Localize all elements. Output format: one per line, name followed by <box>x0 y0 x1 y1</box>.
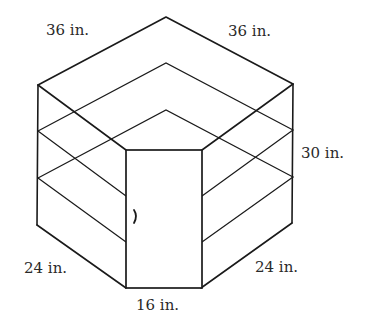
label-height-30in: 30 in. <box>301 146 344 161</box>
cabinet-drawing <box>0 0 366 331</box>
label-top-right-36in: 36 in. <box>228 24 271 39</box>
label-top-left-36in: 36 in. <box>46 23 89 38</box>
label-bottom-left-24in: 24 in. <box>24 261 67 276</box>
cabinet-door <box>126 150 202 288</box>
label-bottom-right-24in: 24 in. <box>255 260 298 275</box>
left-vertical-edge <box>37 85 38 225</box>
shelf-upper-back <box>38 63 293 131</box>
shelf-lower-left-front <box>38 178 126 242</box>
corner-cabinet-diagram: 36 in. 36 in. 30 in. 24 in. 24 in. 16 in… <box>0 0 366 331</box>
label-door-16in: 16 in. <box>136 298 179 313</box>
bottom-left-edge <box>37 225 126 288</box>
right-vertical-edge <box>292 84 293 223</box>
